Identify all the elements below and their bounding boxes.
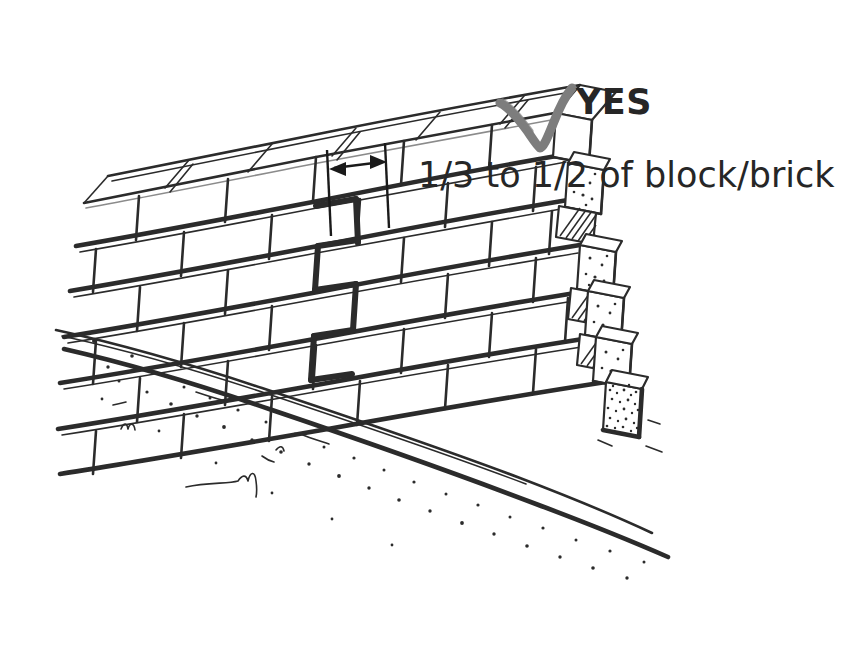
extension-line-left (327, 150, 331, 236)
staggered-joint-highlight (311, 199, 358, 380)
stepped-end-blocks (553, 85, 662, 452)
arrowhead-left (329, 162, 346, 176)
verdict-label: YES (576, 85, 652, 120)
dimension-note-label: 1/3 to 1/2 of block/brick (418, 158, 835, 193)
brick-wall-diagram: YES 1/3 to 1/2 of block/brick (0, 0, 855, 659)
arrowhead-right (370, 155, 387, 169)
wall-sketch (0, 0, 855, 659)
